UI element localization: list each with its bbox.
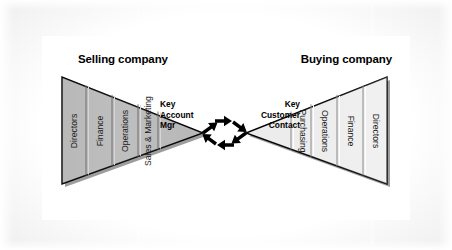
- arrow-upper-middle: [215, 116, 232, 126]
- left-triangle-highlight: [62, 77, 203, 184]
- outer-frame: Selling company Buying company: [0, 0, 452, 250]
- selling-company-triangle: [62, 77, 203, 184]
- two-triangle-diagram: [42, 36, 410, 220]
- bidirectional-arrow-cycle: [199, 116, 250, 150]
- buying-company-triangle: [246, 77, 387, 184]
- arrow-lower-middle: [217, 140, 234, 150]
- diagram-panel: Selling company Buying company: [42, 36, 410, 220]
